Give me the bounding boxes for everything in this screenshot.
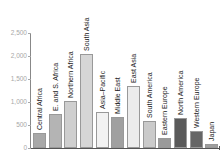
bar bbox=[64, 101, 77, 148]
bar-label: Middle East bbox=[114, 77, 121, 114]
bar-label: Northern Africa bbox=[67, 51, 74, 98]
y-tick-mark bbox=[28, 79, 31, 80]
bar bbox=[111, 117, 124, 148]
bar-label: Western Europe bbox=[193, 77, 200, 127]
bar bbox=[96, 112, 109, 148]
bar-label: E. and S. Africa bbox=[52, 63, 59, 111]
y-tick-label: 1,000 bbox=[11, 99, 27, 106]
y-tick-mark bbox=[28, 56, 31, 57]
bar-label: North America bbox=[177, 71, 184, 115]
bar-label: South America bbox=[146, 72, 153, 118]
y-tick-label: 1,500 bbox=[11, 76, 27, 83]
bar bbox=[49, 114, 62, 148]
bar-label: East Asia bbox=[130, 53, 137, 82]
bar bbox=[205, 144, 218, 148]
bar-chart: 05001,0001,5002,0002,500 Central AfricaE… bbox=[0, 0, 223, 156]
bar bbox=[80, 54, 93, 148]
y-tick-mark bbox=[28, 125, 31, 126]
bar bbox=[143, 121, 156, 148]
y-tick-mark bbox=[28, 33, 31, 34]
y-tick-label: 0 bbox=[23, 145, 27, 152]
y-tick-label: 2,500 bbox=[11, 30, 27, 37]
bar bbox=[33, 133, 46, 148]
y-tick-mark bbox=[28, 148, 31, 149]
y-tick-label: 2,000 bbox=[11, 53, 27, 60]
bar-label: Eastern Europe bbox=[161, 87, 168, 136]
x-axis-end-tick bbox=[219, 146, 220, 150]
bar bbox=[127, 86, 140, 148]
bar-label: South Asia bbox=[83, 17, 90, 50]
x-axis bbox=[30, 148, 220, 149]
bar bbox=[158, 138, 171, 148]
y-tick-mark bbox=[28, 102, 31, 103]
bar bbox=[174, 118, 187, 148]
bar-label: Asia–Pacific bbox=[99, 71, 106, 109]
y-axis bbox=[30, 33, 31, 148]
y-tick-label: 500 bbox=[16, 122, 27, 129]
bar-label: Japan bbox=[208, 122, 215, 141]
bar-label: Central Africa bbox=[36, 88, 43, 130]
bar bbox=[190, 131, 203, 148]
